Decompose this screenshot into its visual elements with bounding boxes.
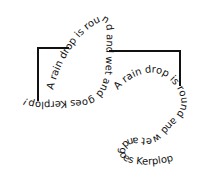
poem-left: A rain drop is round and wet and goes Ke… (21, 13, 116, 111)
poem-left-segment-5: Kerplop! (21, 96, 68, 111)
poem-left-segment-3: round and (81, 13, 115, 57)
poem-left-segment-4: wet and goes (67, 56, 115, 109)
poem-right-segment-6: goes (117, 147, 137, 166)
poem-right-segment-4: round and (157, 84, 191, 140)
poem-left-segment-1: A rain drop (44, 32, 80, 90)
poem-left-path: A rain drop is round and wet and goes Ke… (21, 13, 116, 111)
poem-right-segment-1: A rain (111, 64, 145, 91)
poem-svg: A rain drop is round and wet and goes Ke… (0, 0, 212, 178)
poem-right-segment-2: drop (144, 63, 175, 80)
concrete-poem-canvas: A rain drop is round and wet and goes Ke… (0, 0, 212, 178)
